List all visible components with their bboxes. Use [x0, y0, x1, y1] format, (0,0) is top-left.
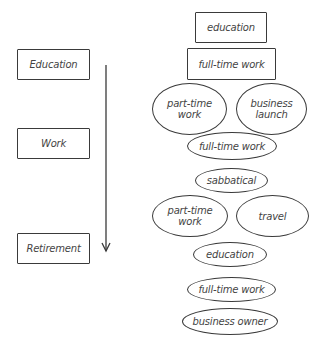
- path-label: education: [206, 249, 254, 260]
- path-full-time-work-ellipse-2: full-time work: [187, 277, 276, 302]
- path-full-time-work-ellipse: full-time work: [187, 132, 277, 160]
- path-label: business launch: [248, 98, 296, 120]
- path-label: travel: [259, 211, 287, 222]
- path-label: business owner: [193, 316, 268, 327]
- timeline-arrow-icon: [0, 0, 325, 354]
- path-education-ellipse: education: [193, 242, 267, 267]
- path-label: full-time work: [199, 141, 265, 152]
- path-education-box: education: [195, 12, 267, 43]
- path-label: full-time work: [198, 59, 264, 70]
- path-sabbatical-ellipse: sabbatical: [195, 168, 268, 193]
- path-label: part-time work: [165, 98, 215, 120]
- life-stages-diagram: Education Work Retirement education full…: [0, 0, 325, 354]
- path-business-launch-ellipse: business launch: [236, 83, 307, 135]
- path-business-owner-ellipse: business owner: [182, 308, 278, 335]
- path-label: sabbatical: [207, 175, 256, 186]
- path-label: part-time work: [165, 205, 215, 227]
- path-label: full-time work: [198, 284, 264, 295]
- path-part-time-work-ellipse-2: part-time work: [152, 195, 228, 237]
- path-part-time-work-ellipse: part-time work: [152, 83, 227, 135]
- path-label: education: [207, 22, 255, 33]
- path-full-time-work-box: full-time work: [187, 48, 276, 80]
- path-travel-ellipse: travel: [236, 195, 309, 237]
